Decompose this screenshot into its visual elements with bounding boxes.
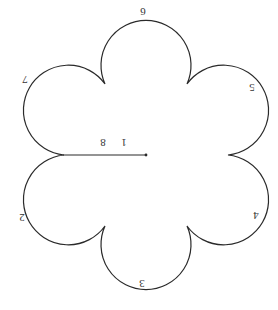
- label-lobe-lower-right: 4: [253, 210, 259, 222]
- label-lobe-upper-right: 5: [249, 82, 255, 94]
- label-lobe-upper-left: 7: [22, 74, 28, 86]
- label-lobe-bottom: 3: [139, 278, 145, 290]
- center-point: [145, 154, 148, 157]
- label-lobe-lower-left: 2: [19, 212, 25, 224]
- label-radius-outer: 8: [100, 137, 106, 149]
- label-radius-inner: 1: [121, 137, 127, 149]
- flower-diagram: 8 1 6 7 5 4 3 2: [0, 0, 278, 310]
- label-lobe-top: 6: [140, 6, 146, 18]
